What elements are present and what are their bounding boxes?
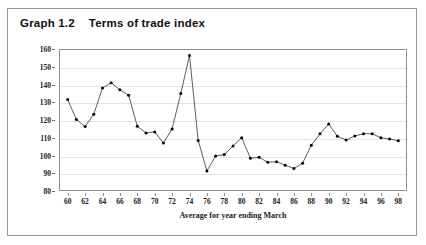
data-point [275, 160, 278, 163]
x-tick-mark [329, 193, 330, 196]
x-tick-mark [85, 193, 86, 196]
y-tick-label: 140 [40, 80, 51, 89]
data-point [232, 145, 235, 148]
x-tick-label: 96 [377, 197, 385, 206]
y-tick-label: 130 [40, 98, 51, 107]
y-tick-mark [52, 85, 55, 86]
data-point [319, 132, 322, 135]
x-tick-mark [364, 193, 365, 196]
y-tick-label: 120 [40, 116, 51, 125]
data-point [379, 136, 382, 139]
x-tick-label: 62 [81, 197, 89, 206]
y-tick-label: 150 [40, 62, 51, 71]
data-point [75, 118, 78, 121]
y-tick-label: 110 [40, 133, 51, 142]
data-point [162, 142, 165, 145]
data-point [284, 164, 287, 167]
y-tick-mark [52, 120, 55, 121]
figure-label: Graph 1.2 [20, 17, 75, 29]
y-tick-mark [52, 173, 55, 174]
data-point [301, 162, 304, 165]
data-point [127, 94, 130, 97]
y-tick-mark [52, 156, 55, 157]
data-point [310, 144, 313, 147]
x-tick-mark [68, 193, 69, 196]
data-point [345, 139, 348, 142]
y-axis-tick-labels: 8090100110120130140150160 [0, 49, 55, 191]
line-series [59, 49, 407, 191]
y-tick-label: 90 [44, 169, 52, 178]
data-point [388, 137, 391, 140]
data-point [110, 81, 113, 84]
series-line [68, 56, 399, 171]
x-tick-label: 72 [168, 197, 176, 206]
data-point [327, 122, 330, 125]
y-tick-mark [52, 138, 55, 139]
x-tick-mark [242, 193, 243, 196]
y-tick-mark [52, 102, 55, 103]
x-tick-label: 86 [290, 197, 298, 206]
data-point [153, 130, 156, 133]
data-point [136, 125, 139, 128]
data-point [92, 113, 95, 116]
x-tick-mark [259, 193, 260, 196]
x-tick-label: 74 [186, 197, 194, 206]
x-tick-mark [207, 193, 208, 196]
x-tick-mark [311, 193, 312, 196]
data-point [188, 54, 191, 57]
data-point [397, 139, 400, 142]
y-tick-mark [52, 49, 55, 50]
data-point [249, 157, 252, 160]
x-tick-label: 78 [221, 197, 229, 206]
data-point [145, 131, 148, 134]
x-tick-mark [120, 193, 121, 196]
data-point [362, 132, 365, 135]
y-tick-mark [52, 191, 55, 192]
x-tick-label: 94 [360, 197, 368, 206]
x-tick-mark [190, 193, 191, 196]
data-point [292, 167, 295, 170]
data-point [197, 139, 200, 142]
x-tick-label: 60 [64, 197, 72, 206]
x-tick-mark [277, 193, 278, 196]
x-tick-mark [398, 193, 399, 196]
x-tick-label: 66 [116, 197, 124, 206]
x-tick-label: 64 [99, 197, 107, 206]
x-tick-label: 70 [151, 197, 159, 206]
figure-title: Terms of trade index [89, 17, 205, 29]
data-point [118, 88, 121, 91]
x-tick-mark [155, 193, 156, 196]
x-tick-mark [172, 193, 173, 196]
data-point [240, 136, 243, 139]
data-point [336, 135, 339, 138]
y-tick-label: 100 [40, 151, 51, 160]
data-point [171, 127, 174, 130]
page-title: Graph 1.2Terms of trade index [20, 17, 205, 29]
data-point [353, 134, 356, 137]
x-tick-label: 84 [273, 197, 281, 206]
data-point [101, 87, 104, 90]
data-point [223, 153, 226, 156]
data-point [66, 98, 69, 101]
data-point [258, 156, 261, 159]
x-axis-title: Average for year ending March [59, 211, 407, 220]
data-point [84, 125, 87, 128]
plot-wrapper [59, 49, 407, 191]
data-point [214, 155, 217, 158]
data-point [179, 92, 182, 95]
x-tick-mark [103, 193, 104, 196]
x-tick-label: 68 [134, 197, 142, 206]
x-tick-label: 88 [308, 197, 316, 206]
y-tick-label: 160 [40, 45, 51, 54]
x-axis-tick-labels: 6062646668707274767880828486889092949698 [59, 193, 407, 207]
x-tick-mark [294, 193, 295, 196]
x-tick-label: 76 [203, 197, 211, 206]
x-tick-mark [224, 193, 225, 196]
x-tick-mark [346, 193, 347, 196]
data-point [205, 169, 208, 172]
y-tick-mark [52, 67, 55, 68]
y-tick-label: 80 [44, 187, 52, 196]
screenshot-page: Graph 1.2Terms of trade index 1979-89 av… [0, 0, 426, 245]
x-tick-label: 82 [255, 197, 263, 206]
x-tick-mark [381, 193, 382, 196]
